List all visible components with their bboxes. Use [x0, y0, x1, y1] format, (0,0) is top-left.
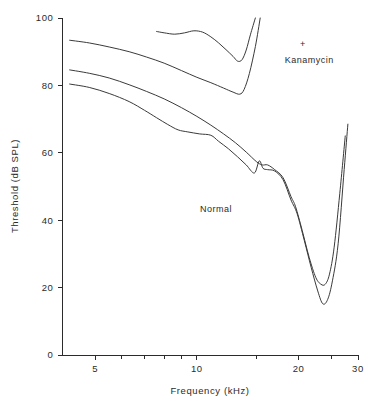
y-tick-label-40: 40: [42, 215, 54, 226]
y-tick-label-60: 60: [42, 147, 54, 158]
curve-kanamycin-lower: [70, 18, 261, 94]
y-tick-label-100: 100: [36, 12, 54, 23]
threshold-frequency-chart: 020406080100 5102030 +KanamycinNormal Fr…: [0, 0, 381, 406]
y-tick-label-20: 20: [42, 282, 54, 293]
y-tick-label-0: 0: [48, 349, 54, 360]
x-tick-label-10: 10: [191, 363, 203, 374]
x-tick-label-30: 30: [352, 363, 364, 374]
x-tick-labels: 5102030: [92, 363, 364, 374]
x-tick-label-20: 20: [293, 363, 305, 374]
axes-group: [63, 18, 359, 356]
y-tick-label-80: 80: [42, 80, 54, 91]
x-axis-title: Frequency (kHz): [170, 385, 249, 396]
y-tick-labels: 020406080100: [36, 12, 54, 360]
chart-figure: 020406080100 5102030 +KanamycinNormal Fr…: [0, 0, 381, 406]
normal-label: Normal: [200, 204, 232, 214]
plot-annotations: +KanamycinNormal: [200, 39, 334, 214]
curve-normal-lower: [70, 84, 348, 304]
curve-normal-upper: [70, 70, 346, 285]
y-tick-marks: [58, 18, 63, 355]
x-tick-label-5: 5: [92, 363, 98, 374]
plus-symbol: +: [300, 39, 306, 49]
curve-kanamycin-upper: [157, 18, 256, 61]
y-axis-title: Threshold (dB SPL): [9, 139, 20, 233]
kanamycin-label: Kanamycin: [285, 55, 334, 65]
